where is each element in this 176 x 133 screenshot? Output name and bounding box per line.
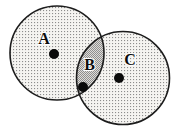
point-c-dot	[114, 73, 124, 83]
set-c-label: C	[124, 51, 136, 68]
venn-diagram-figure: A B C	[0, 0, 176, 133]
intersection-b-label: B	[84, 56, 95, 73]
point-a-dot	[49, 49, 59, 59]
point-b-dot	[78, 82, 88, 92]
set-a-label: A	[38, 30, 50, 47]
venn-diagram-canvas: A B C	[0, 0, 176, 133]
